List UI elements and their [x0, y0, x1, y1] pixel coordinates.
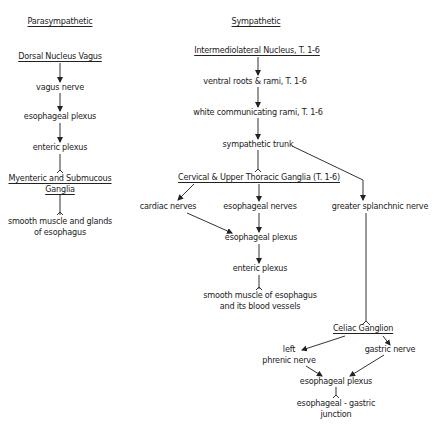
node-intermediolateral-nucleus: Intermediolateral Nucleus, T. 1-6: [194, 45, 320, 56]
node-dorsal-nucleus-vagus: Dorsal Nucleus Vagus: [18, 51, 102, 62]
arrow-phrenic-to-plexus: [306, 366, 322, 376]
arrow-cardiac-to-esoph-plexus: [187, 213, 232, 233]
node-left-phrenic-nerve: left phrenic nerve: [262, 344, 315, 366]
node-cervical-upper-thoracic-ganglia: Cervical & Upper Thoracic Ganglia (T. 1-…: [178, 172, 340, 183]
node-sympathetic-trunk: sympathetic trunk: [223, 139, 294, 150]
node-greater-splanchnic-nerve: greater splanchnic nerve: [332, 201, 428, 212]
node-esophageal-gastric-junction: esophageal - gastric junction: [297, 398, 375, 420]
node-para-esophageal-plexus: esophageal plexus: [24, 111, 96, 122]
node-esophageal-plexus-lower: esophageal plexus: [300, 376, 372, 387]
heading-sympathetic: Sympathetic: [232, 16, 281, 27]
node-celiac-ganglion: Celiac Ganglion: [333, 323, 393, 334]
node-para-target-smooth-muscle-glands: smooth muscle and glands of esophagus: [8, 216, 112, 238]
node-esophageal-nerves: esophageal nerves: [223, 201, 296, 212]
node-cardiac-nerves: cardiac nerves: [140, 201, 197, 212]
node-white-communicating-rami: white communicating rami, T. 1-6: [193, 107, 323, 118]
node-myenteric-submucous-ganglia: Myenteric and Submucous Ganglia: [8, 173, 111, 195]
node-para-enteric-plexus: enteric plexus: [33, 142, 87, 153]
node-ventral-roots-rami: ventral roots & rami, T. 1-6: [203, 76, 306, 87]
node-vagus-nerve: vagus nerve: [36, 82, 84, 93]
node-symp-target-smooth-muscle: smooth muscle of esophagus and its blood…: [203, 290, 316, 312]
arrow-cervical-to-cardiac: [178, 184, 194, 200]
node-symp-enteric-plexus: enteric plexus: [233, 263, 287, 274]
node-symp-esophageal-plexus: esophageal plexus: [225, 232, 297, 243]
arrow-gastric-to-plexus: [350, 355, 384, 376]
connector-lines: [0, 0, 434, 430]
node-gastric-nerve: gastric nerve: [365, 344, 416, 355]
heading-parasympathetic: Parasympathetic: [28, 16, 93, 27]
